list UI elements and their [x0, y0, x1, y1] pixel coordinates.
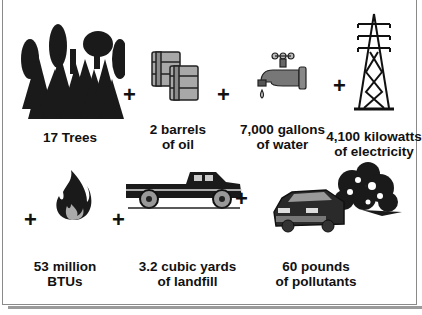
power-tower-icon — [354, 12, 394, 112]
plus-operator: + — [24, 209, 37, 231]
landfill-label: 3.2 cubic yards of landfill — [130, 259, 245, 289]
oil-barrels-icon — [150, 48, 200, 103]
pickup-truck-icon — [124, 168, 244, 210]
pollutants-label: 60 pounds of pollutants — [266, 259, 366, 289]
panel-shadow — [8, 306, 422, 309]
plus-operator: + — [235, 188, 248, 210]
electricity-label: 4,100 kilowatts of electricity — [324, 129, 422, 159]
water-faucet-icon — [253, 52, 308, 104]
plus-operator: + — [217, 84, 230, 106]
plus-operator: + — [333, 75, 346, 97]
flame-icon — [53, 170, 93, 222]
plus-operator: + — [112, 209, 125, 231]
water-label: 7,000 gallons of water — [235, 122, 330, 152]
trees-label: 17 Trees — [20, 130, 120, 145]
plus-operator: + — [123, 84, 136, 106]
car-exhaust-icon — [272, 162, 412, 242]
forest-icon — [10, 24, 125, 119]
oil-label: 2 barrels of oil — [138, 122, 218, 152]
energy-label: 53 million BTUs — [25, 259, 105, 289]
